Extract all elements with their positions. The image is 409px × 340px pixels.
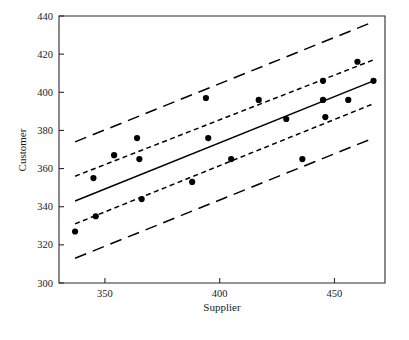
data-point: [136, 156, 142, 162]
y-tick-label: 320: [37, 239, 53, 250]
data-point: [205, 135, 211, 141]
data-point: [320, 78, 326, 84]
data-point: [134, 135, 140, 141]
data-point: [203, 95, 209, 101]
data-point: [283, 116, 289, 122]
y-tick-label: 400: [37, 87, 53, 98]
data-point: [354, 59, 360, 65]
data-point: [189, 179, 195, 185]
data-point: [370, 78, 376, 84]
data-point: [256, 97, 262, 103]
data-point: [72, 228, 78, 234]
x-tick-label: 400: [212, 288, 228, 299]
y-tick-label: 380: [37, 125, 53, 136]
data-point: [299, 156, 305, 162]
data-point: [228, 156, 234, 162]
y-tick-label: 300: [37, 278, 53, 289]
x-axis-label: Supplier: [203, 301, 241, 313]
data-point: [345, 97, 351, 103]
data-point: [93, 213, 99, 219]
plot-background: [0, 0, 409, 340]
x-tick-label: 350: [97, 288, 113, 299]
y-tick-label: 360: [37, 163, 53, 174]
scatter-plot-figure: 350400450 300320340360380400420440 Suppl…: [0, 0, 409, 340]
data-point: [90, 175, 96, 181]
y-tick-label: 440: [37, 11, 53, 22]
data-point: [322, 114, 328, 120]
data-point: [111, 152, 117, 158]
data-point: [139, 196, 145, 202]
y-tick-label: 420: [37, 49, 53, 60]
data-point: [320, 97, 326, 103]
x-tick-label: 450: [327, 288, 343, 299]
y-tick-label: 340: [37, 201, 53, 212]
y-axis-label: Customer: [16, 128, 28, 171]
